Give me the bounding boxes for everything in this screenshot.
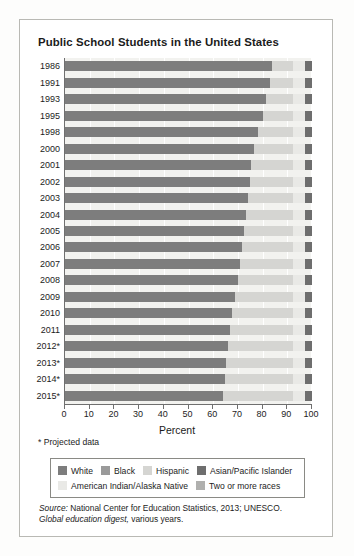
plot-canvas [64, 58, 311, 404]
bar-row[interactable] [65, 259, 311, 269]
bar-segment [263, 111, 294, 121]
bar-segment [65, 61, 272, 71]
y-axis-label: 2014* [36, 374, 60, 384]
bar-segment [65, 391, 223, 401]
y-axis-label: 2001 [40, 160, 60, 170]
bar-row[interactable] [65, 177, 311, 187]
bar-segment [305, 210, 312, 220]
bar-row[interactable] [65, 210, 311, 220]
bar-row[interactable] [65, 94, 311, 104]
legend-item[interactable]: Asian/Pacific Islander [197, 466, 292, 476]
bar-segment [248, 193, 294, 203]
bar-segment [230, 325, 293, 335]
bar-segment [305, 193, 312, 203]
bar-segment [293, 341, 304, 351]
bar-segment [293, 374, 304, 384]
legend-item[interactable]: American Indian/Alaska Native [58, 481, 188, 491]
bar-row[interactable] [65, 275, 311, 285]
bar-segment [225, 374, 294, 384]
bar-row[interactable] [65, 292, 311, 302]
bar-row[interactable] [65, 391, 311, 401]
bar-segment [235, 292, 293, 302]
bar-row[interactable] [65, 193, 311, 203]
bar-segment [293, 242, 304, 252]
bar-segment [293, 325, 304, 335]
x-axis-tick-label: 0 [61, 409, 66, 419]
bar-row[interactable] [65, 308, 311, 318]
bar-segment [65, 111, 263, 121]
bar-row[interactable] [65, 111, 311, 121]
chart-card: Public School Students in the United Sta… [19, 19, 333, 537]
projected-data-footnote: * Projected data [38, 437, 99, 447]
bar-row[interactable] [65, 61, 311, 71]
x-axis-tick-label: 100 [303, 409, 318, 419]
bar-row[interactable] [65, 358, 311, 368]
y-axis-label: 2010 [40, 308, 60, 318]
legend-item[interactable]: Two or more races [196, 481, 280, 491]
page-title: Public School Students in the United Sta… [38, 36, 279, 48]
bar-segment [305, 111, 312, 121]
x-axis-title: Percent [20, 424, 334, 436]
bar-segment [293, 177, 304, 187]
bar-segment [293, 275, 304, 285]
bar-segment [238, 275, 294, 285]
bar-row[interactable] [65, 374, 311, 384]
bar-segment [65, 210, 246, 220]
bar-segment [293, 144, 304, 154]
bar-row[interactable] [65, 160, 311, 170]
bar-segment [305, 275, 312, 285]
bar-segment [305, 61, 312, 71]
bar-segment [65, 127, 258, 137]
legend-item[interactable]: Black [101, 466, 135, 476]
legend-label: Black [114, 466, 135, 476]
bar-segment [65, 226, 244, 236]
bar-row[interactable] [65, 226, 311, 236]
legend-swatch-icon [58, 481, 67, 490]
y-axis-label: 2011 [41, 325, 60, 335]
bar-segment [250, 177, 294, 187]
bar-segment [65, 325, 230, 335]
source-note: Source: National Center for Education St… [39, 503, 324, 525]
bar-row[interactable] [65, 127, 311, 137]
bar-segment [65, 242, 242, 252]
bar-segment [293, 94, 304, 104]
bar-row[interactable] [65, 78, 311, 88]
legend-label: Asian/Pacific Islander [210, 466, 292, 476]
y-axis-label: 1986 [40, 61, 60, 71]
bar-segment [240, 259, 293, 269]
bar-segment [305, 127, 312, 137]
bar-segment [293, 358, 304, 368]
legend-item[interactable]: Hispanic [143, 466, 189, 476]
x-axis-tick-label: 60 [207, 409, 217, 419]
gridline-100 [312, 58, 313, 404]
bar-segment [305, 144, 312, 154]
bar-row[interactable] [65, 242, 311, 252]
bar-segment [226, 358, 293, 368]
bar-segment [293, 127, 304, 137]
legend-item[interactable]: White [58, 466, 93, 476]
bar-row[interactable] [65, 325, 311, 335]
bar-segment [293, 160, 304, 170]
bar-segment [293, 391, 304, 401]
bar-row[interactable] [65, 341, 311, 351]
bar-segment [65, 160, 251, 170]
bar-segment [65, 341, 228, 351]
legend-label: Two or more races [209, 481, 280, 491]
bar-segment [305, 391, 312, 401]
bar-row[interactable] [65, 144, 311, 154]
y-axis-label: 1993 [40, 94, 60, 104]
bar-segment [246, 210, 293, 220]
bar-segment [305, 308, 312, 318]
y-axis-label: 1995 [40, 111, 60, 121]
bar-segment [228, 341, 293, 351]
y-axis-label: 2013* [36, 358, 60, 368]
y-axis-label: 2015* [36, 391, 60, 401]
legend-swatch-icon [197, 466, 206, 475]
bar-segment [65, 358, 226, 368]
x-axis-tick-label: 10 [84, 409, 94, 419]
bar-segment [305, 78, 312, 88]
source-line-1: National Center for Education Statistics… [68, 503, 282, 513]
bar-segment [244, 226, 293, 236]
bar-segment [305, 94, 312, 104]
bar-segment [65, 177, 250, 187]
